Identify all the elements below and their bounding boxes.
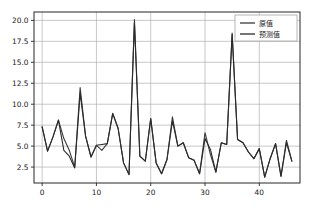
y-tick-label: 7.5 xyxy=(17,121,29,130)
y-tick-label: 2.5 xyxy=(17,163,29,172)
legend-label: 原值 xyxy=(259,19,273,28)
x-tick-label: 20 xyxy=(146,188,156,197)
y-tick-label: 17.5 xyxy=(12,37,29,46)
x-tick-label: 0 xyxy=(40,188,45,197)
y-tick-label: 12.5 xyxy=(12,79,29,88)
y-tick-label: 20.0 xyxy=(12,16,29,25)
x-tick-label: 30 xyxy=(200,188,210,197)
x-tick-label: 40 xyxy=(255,188,265,197)
chart-figure: 2.55.07.510.012.515.017.520.0 010203040 … xyxy=(0,0,313,217)
y-tick-label: 5.0 xyxy=(17,142,29,151)
y-tick-label: 10.0 xyxy=(12,100,29,109)
x-tick-label: 10 xyxy=(92,188,102,197)
y-tick-label: 15.0 xyxy=(12,58,29,67)
line-chart: 2.55.07.510.012.515.017.520.0 010203040 … xyxy=(0,0,313,217)
legend-label: 预测值 xyxy=(259,30,280,39)
chart-legend[interactable]: 原值预测值 xyxy=(235,15,297,41)
